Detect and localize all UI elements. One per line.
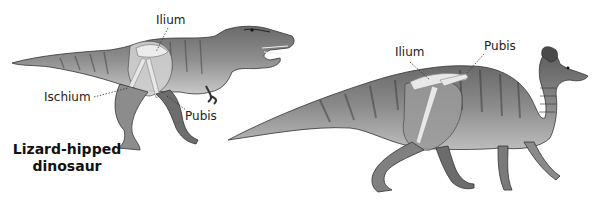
caption-line-1: Lizard-hipped xyxy=(12,141,122,158)
pubis-label-right: Pubis xyxy=(484,40,516,52)
ilium-label-right: Ilium xyxy=(395,46,425,58)
pubis-label-left: Pubis xyxy=(185,110,217,122)
lizard-hipped-caption: Lizard-hipped dinosaur xyxy=(12,141,122,175)
caption-line-2: dinosaur xyxy=(12,158,122,175)
diagram-canvas xyxy=(0,0,592,209)
ilium-label-left: Ilium xyxy=(156,14,186,26)
hadrosaur-illustration xyxy=(228,47,588,192)
ischium-label: Ischium xyxy=(44,91,91,103)
